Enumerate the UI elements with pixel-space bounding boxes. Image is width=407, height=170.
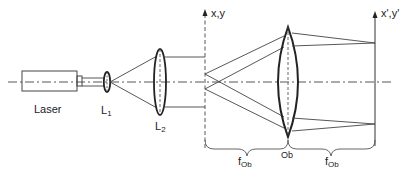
lens-l1-label: L1	[101, 105, 112, 118]
arrow-up-icon	[203, 9, 208, 16]
laser-tube	[77, 76, 82, 86]
focal-length-left-label: fOb	[238, 156, 252, 169]
focal-length-right-label: fOb	[325, 156, 339, 169]
laser-body	[22, 71, 77, 91]
image-plane-label: x',y'	[381, 8, 399, 19]
laser-label: Laser	[34, 104, 62, 115]
brace-focal-right	[288, 140, 375, 156]
focal-plane-label: x,y	[211, 8, 225, 19]
objective-label: Ob	[281, 151, 293, 160]
optical-diagram	[0, 0, 407, 170]
arrow-up-icon	[373, 11, 378, 18]
brace-focal-left	[205, 140, 288, 156]
lens-l2-label: L2	[155, 121, 166, 134]
